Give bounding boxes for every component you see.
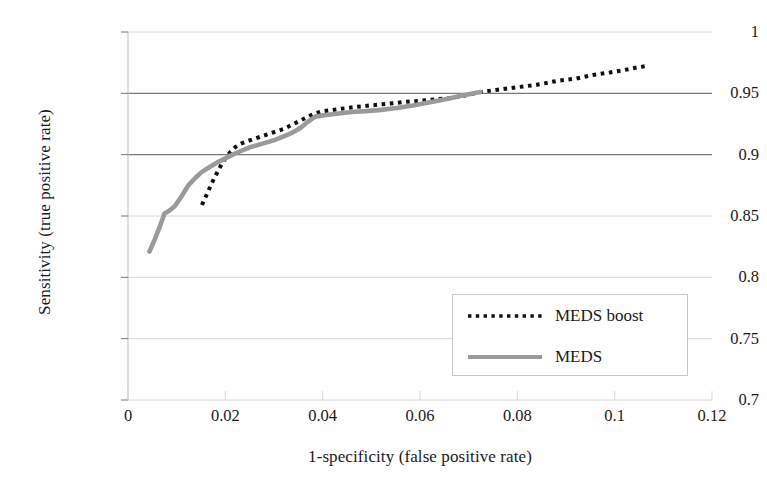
legend-item-meds-boost: MEDS boost <box>453 295 687 336</box>
y-tick-label: 0.85 <box>659 208 767 224</box>
x-tick-label: 0.04 <box>288 406 358 426</box>
y-tick-label: 0.9 <box>659 147 767 163</box>
legend-item-meds: MEDS <box>453 336 687 377</box>
x-tick-label: 0.08 <box>482 406 552 426</box>
legend: MEDS boost MEDS <box>452 294 688 376</box>
y-axis-title: Sensitivity (true positive rate) <box>30 12 60 412</box>
y-tick-label: 0.95 <box>659 85 767 101</box>
x-tick-label: 0 <box>93 406 163 426</box>
x-tick-label: 0.06 <box>385 406 455 426</box>
x-tick-label: 0.12 <box>677 406 747 426</box>
roc-chart: Sensitivity (true positive rate) 1-speci… <box>0 0 767 495</box>
solid-line-icon <box>467 350 543 364</box>
y-tick-label: 1 <box>659 24 767 40</box>
x-tick-label: 0.1 <box>580 406 650 426</box>
legend-label-meds: MEDS <box>555 347 602 367</box>
legend-label-meds-boost: MEDS boost <box>555 306 643 326</box>
x-tick-label: 0.02 <box>190 406 260 426</box>
x-axis-title: 1-specificity (false positive rate) <box>128 447 712 467</box>
dotted-line-icon <box>467 309 543 323</box>
y-tick-label: 0.8 <box>659 269 767 285</box>
